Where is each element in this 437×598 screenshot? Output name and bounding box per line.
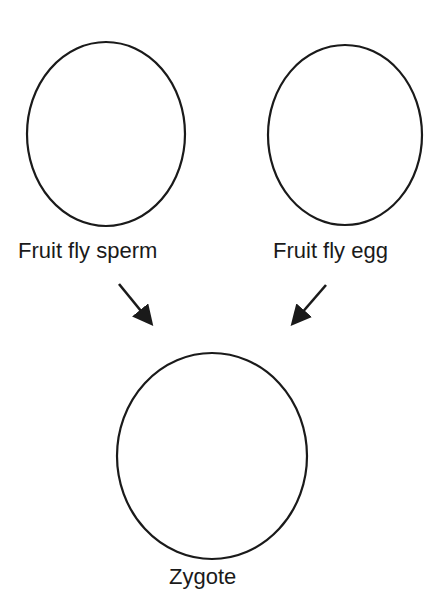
fertilization-diagram bbox=[0, 0, 437, 598]
sperm-cell-outline bbox=[27, 42, 185, 226]
egg-label: Fruit fly egg bbox=[273, 238, 388, 264]
sperm-label: Fruit fly sperm bbox=[18, 238, 157, 264]
zygote-label: Zygote bbox=[169, 564, 236, 590]
egg-cell-outline bbox=[268, 45, 422, 225]
zygote-cell-outline bbox=[117, 353, 307, 559]
arrow-egg-to-zygote-icon bbox=[294, 285, 326, 322]
arrow-sperm-to-zygote-icon bbox=[119, 284, 150, 322]
